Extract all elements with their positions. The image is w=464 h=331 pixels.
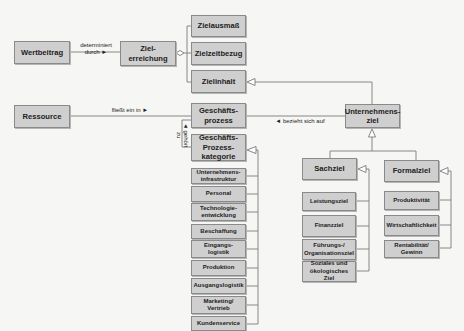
node-zielzeitbezug: Zielzeitbezug [191,42,246,65]
formalziel-rentabilitaet-gewinn: Rentabilität/ Gewinn [384,240,439,258]
category-beschaffung: Beschaffung [191,224,246,239]
node-zielerreichung: Ziel- erreichung [120,41,176,66]
edge-label-fliesst-ein-in: fließt ein in ► [100,107,160,114]
category-personal: Personal [191,186,246,202]
edge-label-bezieht-sich-auf: ◄ bezieht sich auf [270,118,330,125]
node-zielinhalt: Zielinhalt [191,70,246,93]
formalziel-wirtschaftlichkeit: Wirtschaftlichkeit [384,215,439,236]
node-wertbeitrag: Wertbeitrag [14,41,70,64]
sachziel-finanzziel: Finanzziel [302,215,356,237]
category-eingangslogistik: Eingangs- logistik [191,240,246,258]
node-geschaeftsprozess: Geschäfts- prozess [191,103,246,128]
category-kundenservice: Kundenservice [191,316,246,331]
category-produktion: Produktion [191,260,246,276]
node-sachziel: Sachziel [302,158,357,180]
category-ausgangslogistik: Ausgangslogistik [191,278,246,294]
node-unternehmensziel: Unternehmens- ziel [345,104,400,128]
node-zielausmass: Zielausmaß [191,15,246,37]
category-technologieentwicklung: Technologie- entwicklung [191,203,246,221]
formalziel-produktivitaet: Produktivität [384,191,439,210]
sachziel-soziales-oekologisches-ziel: Soziales und ökologisches Ziel [302,261,356,282]
node-geschaeftsprozesskategorie: Geschäfts- Prozess- kategorie [191,134,246,161]
category-unternehmensinfrastruktur: Unternehmens- infrastruktur [191,168,246,184]
edge-label-determiniert-durch: determiniert durch ► [74,42,118,56]
node-formalziel: Formalziel [384,160,439,182]
node-ressource: Ressource [14,105,70,128]
category-marketing-vertrieb: Marketing/ Vertrieb [191,296,246,314]
sachziel-leistungsziel: Leistungsziel [302,192,356,211]
edge-label-gehoert-zu: ◄ gehört zu [175,116,189,154]
sachziel-fuehrungs-organisationsziel: Führungs-/ Organisationsziel [302,239,356,260]
